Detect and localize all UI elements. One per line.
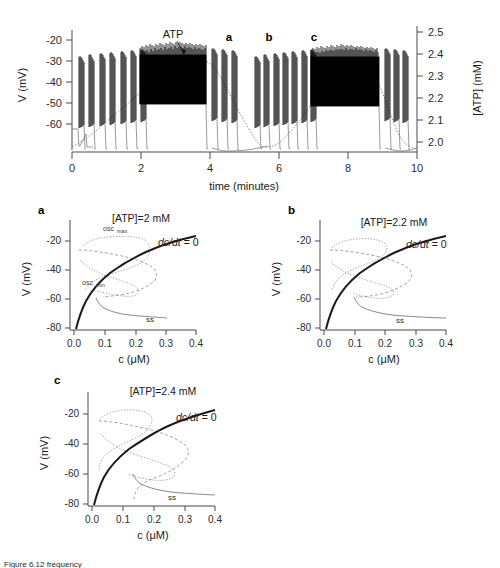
panel-c-nullcline-curve bbox=[94, 410, 215, 505]
panel-b-ytick-1: -40 bbox=[297, 264, 312, 275]
panel-a-xticks bbox=[74, 330, 196, 335]
top-xtick-0: 0 bbox=[69, 162, 75, 174]
panel-c-oscmin-curve bbox=[101, 434, 175, 480]
panel-b-ytick-3: -80 bbox=[297, 322, 312, 333]
top-marker-b: b bbox=[265, 31, 272, 43]
panel-c-nullcline-label: dc/dt = 0 bbox=[176, 411, 217, 423]
panel-c-xlabel: c (μM) bbox=[137, 529, 168, 541]
panel-c-xtick-2: 0.2 bbox=[147, 514, 161, 525]
panel-a-yticks bbox=[65, 241, 70, 328]
panel-b-xtick-0: 0.0 bbox=[317, 338, 331, 349]
panel-c-ss-curve bbox=[133, 474, 215, 495]
panel-b-yticks bbox=[315, 241, 320, 328]
panel-b-letter: b bbox=[288, 204, 295, 216]
panel-b-xticks bbox=[324, 330, 446, 335]
panel-a-nullcline-label: dc/dt = 0 bbox=[158, 236, 199, 248]
top-xtick-3: 6 bbox=[276, 162, 282, 174]
top-ytick-right-4: 2.1 bbox=[428, 114, 443, 126]
panel-b-oscmax-curve bbox=[332, 239, 387, 290]
top-xtick-5: 10 bbox=[411, 162, 423, 174]
panel-a-xlabel: c (μM) bbox=[118, 353, 149, 365]
panel-b-ss-label: ss bbox=[396, 316, 404, 325]
panel-a-oscmax-curve bbox=[83, 236, 150, 290]
top-xaxis-label: time (minutes) bbox=[209, 180, 279, 192]
top-marker-a: a bbox=[226, 31, 233, 43]
panel-a-xtick-1: 0.1 bbox=[98, 338, 112, 349]
svg-text:osc: osc bbox=[103, 225, 114, 232]
figure-caption-text: Figure 6.12 frequency bbox=[4, 560, 82, 568]
panel-c-ytick-0: -20 bbox=[65, 408, 80, 419]
panel-a-xtick-2: 0.2 bbox=[129, 338, 143, 349]
panel-b-xtick-3: 0.3 bbox=[409, 338, 423, 349]
panel-a-ylabel: V (mV) bbox=[20, 262, 32, 296]
svg-text:min: min bbox=[96, 282, 105, 288]
panel-c-xtick-0: 0.0 bbox=[85, 514, 99, 525]
top-left-ticks bbox=[66, 40, 72, 124]
atp-annotation-label: ATP bbox=[163, 28, 184, 40]
panel-b-xtick-1: 0.1 bbox=[348, 338, 362, 349]
top-ytick-left-0: -20 bbox=[46, 34, 62, 46]
panel-a-ytick-0: -20 bbox=[47, 235, 62, 246]
panel-b-atp-annotation: [ATP]=2.2 mM bbox=[361, 216, 428, 228]
top-panel: -20 -30 -40 -50 -60 V (mV) 2.5 2.4 2.3 2… bbox=[16, 26, 483, 192]
figure-container: -20 -30 -40 -50 -60 V (mV) 2.5 2.4 2.3 2… bbox=[0, 0, 500, 568]
figure-svg: -20 -30 -40 -50 -60 V (mV) 2.5 2.4 2.3 2… bbox=[0, 0, 500, 568]
panel-c-atp-annotation: [ATP]=2.4 mM bbox=[130, 385, 197, 397]
panel-c-saddle-curve bbox=[99, 421, 189, 499]
panel-a-ss-curve bbox=[96, 298, 167, 318]
panel-c-letter: c bbox=[54, 374, 61, 386]
continuous-plateau-1 bbox=[140, 42, 206, 104]
panel-a-atp-annotation: [ATP]=2 mM bbox=[112, 212, 170, 224]
panel-a-ytick-1: -40 bbox=[47, 264, 62, 275]
panel-b-xtick-2: 0.2 bbox=[378, 338, 392, 349]
top-ytick-left-4: -60 bbox=[46, 118, 62, 130]
panel-a-ss-label: ss bbox=[146, 315, 154, 324]
panel-c-ytick-3: -80 bbox=[65, 498, 80, 509]
panel-b-ytick-0: -20 bbox=[297, 235, 312, 246]
panel-a-ytick-3: -80 bbox=[47, 322, 62, 333]
top-yaxis-right-label: [ATP] (mM) bbox=[471, 60, 483, 115]
panel-a-xtick-0: 0.0 bbox=[67, 338, 81, 349]
burst-spikes bbox=[79, 42, 239, 150]
panel-b-ylabel: V (mV) bbox=[270, 262, 282, 296]
panel-a-nullcline-curve bbox=[76, 236, 196, 329]
top-ytick-right-5: 2.0 bbox=[428, 136, 443, 148]
panel-c-xtick-4: 0.4 bbox=[208, 514, 222, 525]
panel-c: c -20 -40 -60 -80 V (mV) 0.0 0.1 0.2 0.3… bbox=[38, 374, 222, 541]
burst-spikes-cycle2 bbox=[255, 44, 410, 150]
panel-c-ss-label: ss bbox=[168, 493, 176, 502]
panel-b-ss-curve bbox=[354, 297, 446, 318]
top-ytick-left-3: -50 bbox=[46, 97, 62, 109]
panel-c-xticks bbox=[92, 506, 215, 511]
top-xaxis-ticks bbox=[72, 152, 417, 159]
top-xtick-1: 2 bbox=[138, 162, 144, 174]
top-right-ticks bbox=[417, 32, 423, 142]
panel-a-ytick-2: -60 bbox=[47, 293, 62, 304]
top-ytick-right-3: 2.2 bbox=[428, 92, 443, 104]
top-xtick-4: 8 bbox=[345, 162, 351, 174]
top-ytick-right-2: 2.3 bbox=[428, 70, 443, 82]
panel-a-oscmax-label: osc max bbox=[103, 225, 128, 234]
panel-a-saddle-curve bbox=[79, 250, 156, 297]
panel-c-yticks bbox=[83, 414, 88, 504]
svg-text:osc: osc bbox=[82, 279, 93, 286]
top-ytick-right-0: 2.5 bbox=[428, 26, 443, 38]
top-xtick-2: 4 bbox=[207, 162, 213, 174]
panel-a-letter: a bbox=[38, 204, 45, 216]
panel-a: a -20 -40 -60 -80 V (mV) 0.0 0.1 0.2 0.3… bbox=[20, 204, 203, 365]
top-ytick-left-2: -40 bbox=[46, 76, 62, 88]
panel-a-xtick-3: 0.3 bbox=[159, 338, 173, 349]
panel-b: b -20 -40 -60 -80 V (mV) 0.0 0.1 0.2 0.3… bbox=[270, 204, 453, 365]
voltage-trace bbox=[72, 129, 417, 151]
panel-c-xtick-1: 0.1 bbox=[116, 514, 130, 525]
figure-caption: Figure 6.12 frequency bbox=[4, 560, 82, 568]
top-ytick-left-1: -30 bbox=[46, 55, 62, 67]
svg-text:max: max bbox=[117, 228, 128, 234]
continuous-plateau-2 bbox=[311, 44, 379, 106]
panel-b-ytick-2: -60 bbox=[297, 293, 312, 304]
panel-c-ylabel: V (mV) bbox=[38, 436, 50, 470]
panel-c-ytick-1: -40 bbox=[65, 438, 80, 449]
panel-b-xtick-4: 0.4 bbox=[439, 338, 453, 349]
panel-c-xtick-3: 0.3 bbox=[178, 514, 192, 525]
panel-c-ytick-2: -60 bbox=[65, 468, 80, 479]
